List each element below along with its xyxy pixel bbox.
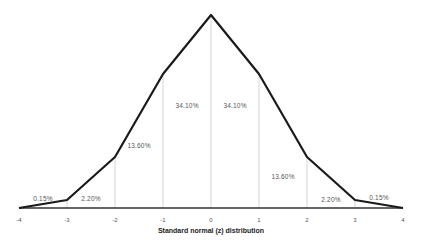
x-tick-label: -4 bbox=[16, 217, 22, 223]
x-tick-label: 0 bbox=[209, 217, 213, 223]
region-label: 0.15% bbox=[33, 195, 52, 202]
region-label: 13.60% bbox=[271, 173, 294, 180]
divider-lines bbox=[67, 15, 355, 208]
x-tick-label: -2 bbox=[112, 217, 118, 223]
region-label: 13.60% bbox=[127, 142, 150, 149]
x-tick-label: 4 bbox=[401, 217, 405, 223]
region-label: 2.20% bbox=[81, 195, 100, 202]
region-label: 34.10% bbox=[175, 102, 198, 109]
region-label: 0.15% bbox=[369, 194, 388, 201]
x-axis-ticks: -4 -3 -2 -1 0 1 2 3 4 bbox=[16, 217, 405, 223]
x-tick-label: 1 bbox=[257, 217, 261, 223]
region-label: 34.10% bbox=[223, 102, 246, 109]
x-tick-label: -3 bbox=[64, 217, 70, 223]
region-label: 2.20% bbox=[321, 196, 340, 203]
x-tick-label: -1 bbox=[160, 217, 166, 223]
x-axis-title: Standard normal (z) distribution bbox=[158, 227, 264, 235]
x-tick-label: 2 bbox=[305, 217, 309, 223]
x-tick-label: 3 bbox=[353, 217, 357, 223]
normal-distribution-chart: 0.15% 2.20% 13.60% 34.10% 34.10% 13.60% … bbox=[0, 0, 421, 245]
